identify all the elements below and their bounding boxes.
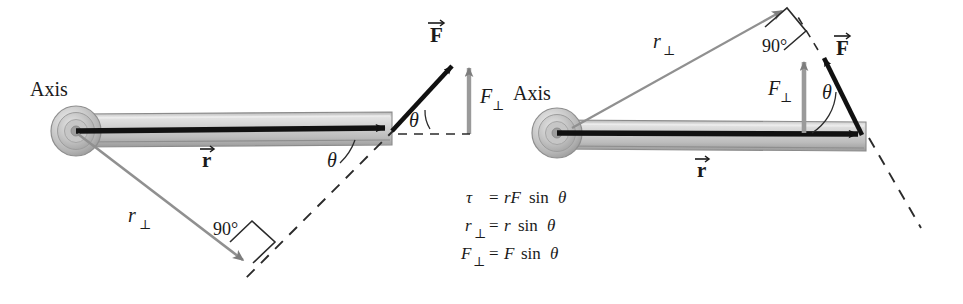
r-perp-vector-left [78, 134, 243, 260]
equation-2-rhs-fn: sin [521, 244, 541, 263]
equation-row-2: F ⊥ = F sin θ [460, 244, 558, 269]
equation-0-eq: = [489, 188, 499, 207]
right-angle-label-right: 90° [762, 36, 787, 56]
r-perp-sub-left: ⊥ [139, 217, 151, 232]
equation-1-rhs-pre: r [504, 216, 511, 235]
right-angle-label-left: 90° [213, 219, 238, 239]
r-perp-sub-right: ⊥ [663, 43, 675, 58]
f-perp-label-left: F ⊥ [479, 85, 504, 113]
r-vector-label-left: r [200, 146, 214, 172]
equation-2-eq: = [489, 244, 499, 263]
right-torque-diagram: Axis r F F ⊥ r ⊥ 90° θ [513, 8, 921, 228]
force-line-of-action-right [869, 138, 921, 228]
equation-0-lhs: τ [466, 188, 473, 207]
equation-1-lhs-sub: ⊥ [474, 226, 486, 241]
equation-2-rhs-ang: θ [550, 244, 558, 263]
theta-arc-force-left [425, 110, 430, 129]
force-line-of-action-left [243, 128, 396, 281]
equation-1-rhs-fn: sin [518, 216, 538, 235]
force-vector-left [392, 66, 452, 131]
axis-label-right: Axis [513, 82, 551, 104]
axis-label-left: Axis [30, 78, 68, 100]
r-perp-label-right: r ⊥ [653, 30, 675, 58]
f-perp-label-right-text: F [767, 77, 781, 99]
equation-0-rhs-pre: rF [504, 188, 522, 207]
theta-label-rod-left: θ [327, 149, 337, 171]
force-label-right: F [834, 33, 850, 60]
theta-label-force-left: θ [409, 109, 419, 131]
equation-1-lhs: r [465, 216, 472, 235]
equation-row-1: r ⊥ = r sin θ [465, 216, 555, 241]
equation-2-lhs-sub: ⊥ [473, 254, 485, 269]
equation-0-rhs-fn: sin [529, 188, 549, 207]
theta-label-right: θ [822, 81, 832, 103]
f-perp-label-left-text: F [479, 85, 493, 107]
equation-1-eq: = [489, 216, 499, 235]
f-perp-sub-left: ⊥ [492, 98, 504, 113]
equation-row-0: τ = rF sin θ [466, 188, 566, 207]
force-label-right-text: F [836, 36, 849, 60]
left-torque-diagram: Axis r F F ⊥ r ⊥ 90° θ θ [30, 20, 504, 281]
r-perp-label-left-text: r [128, 204, 136, 226]
r-perp-vector-right [572, 11, 782, 128]
r-vector-left [76, 128, 385, 131]
r-perp-label-left: r ⊥ [128, 204, 151, 232]
force-line-of-action-upper-right [798, 17, 818, 50]
equation-1-rhs-ang: θ [547, 216, 555, 235]
f-perp-label-right: F ⊥ [767, 77, 792, 105]
equation-2-lhs: F [460, 244, 472, 263]
r-perp-label-right-text: r [653, 30, 661, 52]
equation-block: τ = rF sin θ r ⊥ = r sin θ F ⊥ = F sin [460, 188, 566, 269]
equation-2-rhs-pre: F [503, 244, 515, 263]
f-perp-sub-right: ⊥ [780, 90, 792, 105]
torque-figure: Axis r F F ⊥ r ⊥ 90° θ θ [0, 0, 963, 304]
force-label-left-text: F [430, 23, 443, 47]
equation-0-rhs-ang: θ [558, 188, 566, 207]
force-label-left: F [428, 20, 444, 47]
r-vector-label-right: r [695, 156, 709, 182]
